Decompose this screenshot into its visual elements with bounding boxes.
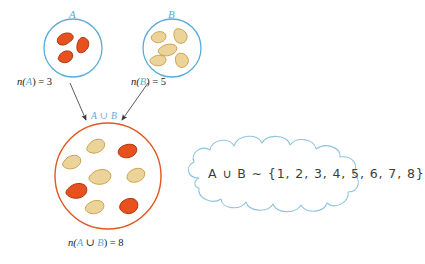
cloud-expression-text: A ∪ B ∼ {1, 2, 3, 4, 5, 6, 7, 8} — [208, 166, 425, 181]
union-group — [55, 123, 161, 229]
union-top-label: A ∪ B — [91, 110, 117, 121]
arrow-b-to-union — [122, 83, 148, 120]
union-count-operator: ∪ — [83, 237, 97, 248]
union-beans — [61, 137, 147, 215]
set-b-count-suffix: ) = 5 — [146, 76, 166, 87]
set-a-group — [44, 19, 102, 77]
union-count-suffix: ) = 8 — [104, 237, 124, 248]
bean-orange — [118, 197, 140, 216]
set-b-group — [143, 19, 201, 77]
bean-tan — [85, 137, 107, 155]
bean-orange — [56, 32, 74, 46]
set-a-count-suffix: ) = 3 — [32, 76, 52, 87]
arrow-a-to-union — [70, 83, 86, 120]
bean-orange — [76, 37, 90, 54]
set-b-count-prefix: n( — [131, 76, 140, 87]
set-a-count-prefix: n( — [17, 76, 26, 87]
bean-tan — [61, 154, 82, 171]
set-a-circle — [44, 19, 102, 77]
bean-tan — [84, 199, 105, 215]
set-b-beans — [149, 28, 190, 69]
bean-tan — [88, 168, 112, 185]
bean-orange — [65, 182, 88, 200]
bean-tan — [149, 54, 167, 67]
union-count-label: n(A ∪ B) = 8 — [68, 236, 124, 248]
bean-orange — [57, 49, 75, 64]
set-b-letter-label: B — [168, 8, 175, 20]
bean-tan — [172, 28, 189, 45]
bean-tan — [173, 52, 190, 70]
bean-tan — [125, 166, 146, 184]
set-a-beans — [56, 32, 89, 64]
union-count-prefix: n( — [68, 237, 77, 248]
set-a-count-label: n(A) = 3 — [17, 76, 52, 87]
bean-orange — [117, 143, 138, 160]
set-b-count-label: n(B) = 5 — [131, 76, 166, 87]
set-a-letter-label: A — [69, 8, 76, 20]
bean-tan — [150, 31, 166, 44]
